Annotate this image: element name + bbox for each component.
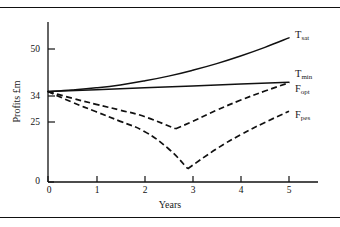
series-label-tmin: Tmin [295,69,312,80]
series-line-fpes [48,92,289,169]
x-tick-label-3: 3 [188,186,198,196]
x-axis-title: Years [0,199,340,210]
series-label-tsat: Tsat [295,30,309,41]
series-label-fpes: Fpes [295,110,310,121]
series-label-tmin-sub: min [301,73,312,81]
x-tick-label-0: 0 [44,186,54,196]
series-label-fpes-sub: pes [301,114,310,122]
x-tick-label-1: 1 [92,186,102,196]
x-tick-label-4: 4 [236,186,246,196]
x-tick-label-5: 5 [284,186,294,196]
x-axis-ticks [48,176,289,182]
y-tick-label-0: 0 [18,177,40,187]
series-label-fopt-main: F [295,83,301,94]
series-line-tmin [48,82,289,91]
y-axis-title: Profits £m [11,66,22,138]
series-label-fpes-main: F [295,109,301,120]
series-label-fopt: Fopt [295,84,310,95]
y-axis-ticks [48,49,55,182]
series-label-fopt-sub: opt [301,88,310,96]
figure-container: 50 34 25 0 0 1 2 3 4 5 Profits £m Years … [0,0,340,227]
x-tick-label-2: 2 [140,186,150,196]
y-tick-label-50: 50 [18,45,40,55]
series-label-tsat-sub: sat [301,34,309,42]
